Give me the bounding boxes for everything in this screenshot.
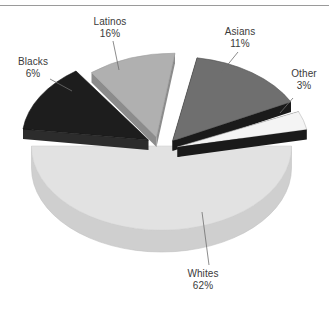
pie-label-other-name: Other (281, 68, 327, 80)
pie-label-whites: Whites 62% (172, 268, 234, 291)
pie-chart-figure: Latinos 16% Asians 11% Blacks 6% Other 3… (0, 0, 329, 314)
pie-label-latinos-name: Latinos (75, 16, 145, 28)
pie-slice-whites (32, 146, 292, 252)
pie-label-blacks: Blacks 6% (2, 56, 64, 79)
pie-label-whites-value: 62% (172, 280, 234, 292)
pie-label-other: Other 3% (281, 68, 327, 91)
pie-label-other-value: 3% (281, 80, 327, 92)
pie-label-latinos-value: 16% (75, 28, 145, 40)
pie-label-blacks-name: Blacks (2, 56, 64, 68)
pie-label-asians: Asians 11% (205, 26, 275, 49)
pie-label-latinos: Latinos 16% (75, 16, 145, 39)
pie-chart-graphic (0, 0, 329, 314)
pie-label-asians-name: Asians (205, 26, 275, 38)
pie-label-asians-value: 11% (205, 38, 275, 50)
pie-label-blacks-value: 6% (2, 68, 64, 80)
pie-label-whites-name: Whites (172, 268, 234, 280)
